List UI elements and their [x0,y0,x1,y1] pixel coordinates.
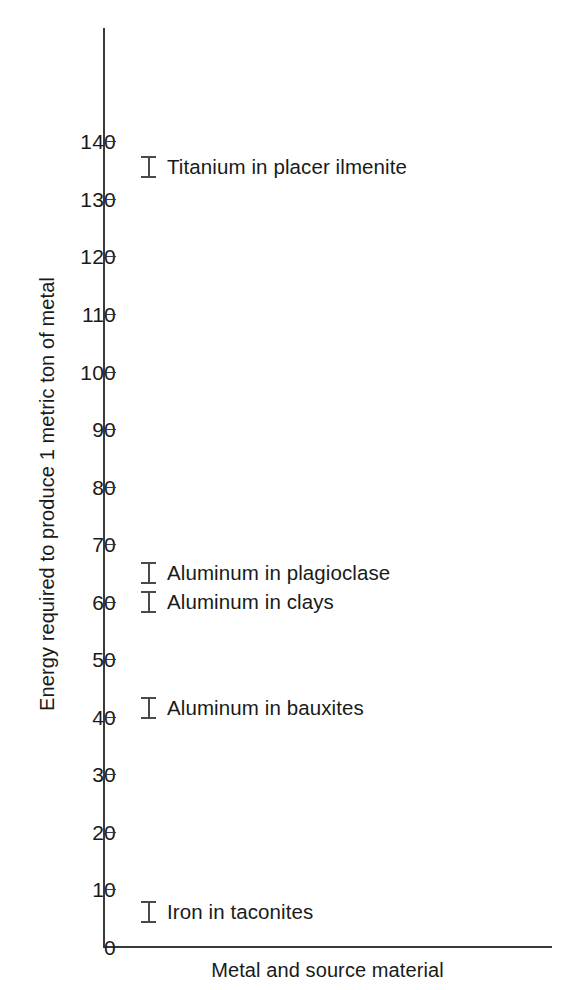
marker-stem [148,697,150,719]
y-axis-tick-label: 0 [60,937,116,958]
marker-stem [148,901,150,923]
y-axis-tick-mark [105,487,116,488]
y-axis-tick-mark [105,659,116,660]
marker-cap-bottom [141,176,156,178]
data-point-marker [141,591,156,613]
y-axis-tick-mark [105,199,116,200]
y-axis-tick-mark [105,429,116,430]
data-point-label: Iron in taconites [167,902,313,923]
marker-cap-bottom [141,582,156,584]
data-point-marker [141,156,156,178]
data-point-label: Aluminum in clays [167,592,334,613]
y-axis-tick-mark [105,832,116,833]
y-axis-tick-mark [105,544,116,545]
marker-stem [148,156,150,178]
y-axis-tick-mark [105,141,116,142]
data-point-label: Aluminum in bauxites [167,698,364,719]
data-point-marker [141,697,156,719]
y-axis-tick-mark [105,256,116,257]
y-axis-tick-mark [105,889,116,890]
y-axis-tick-mark [105,717,116,718]
data-point-marker [141,901,156,923]
x-axis-title: Metal and source material [103,960,552,980]
data-point-label: Aluminum in plagioclase [167,563,390,584]
y-axis-tick-mark [105,314,116,315]
data-point-label: Titanium in placer ilmenite [167,157,407,178]
y-axis-tick-mark [105,602,116,603]
data-point-marker [141,562,156,584]
x-axis-line [103,946,552,948]
marker-stem [148,591,150,613]
marker-stem [148,562,150,584]
y-axis-tick-mark [105,774,116,775]
marker-cap-bottom [141,611,156,613]
y-axis-title: Energy required to produce 1 metric ton … [37,259,57,729]
marker-cap-bottom [141,717,156,719]
y-axis-tick-mark [105,372,116,373]
chart-figure: 0102030405060708090100110120130140 Titan… [0,0,575,990]
marker-cap-bottom [141,921,156,923]
